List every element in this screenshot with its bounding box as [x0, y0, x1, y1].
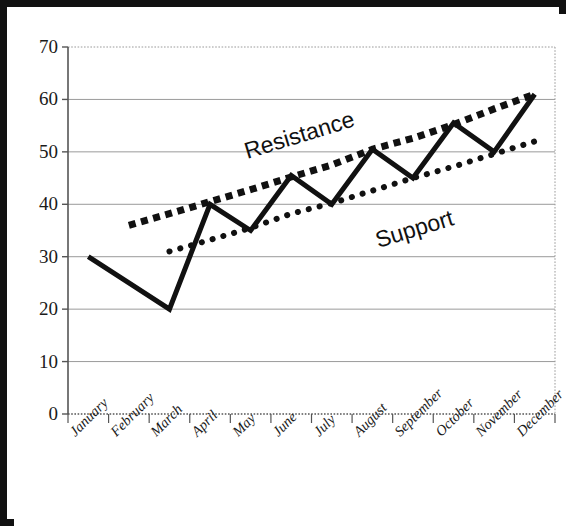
y-tick-label: 10 — [24, 352, 58, 371]
y-tick-label: 20 — [24, 299, 58, 318]
y-tick-label: 40 — [24, 194, 58, 213]
y-tick-label: 70 — [24, 37, 58, 56]
y-tick-label: 0 — [24, 404, 58, 423]
chart-canvas: 706050403020100 JanuaryFebruaryMarchApri… — [14, 14, 566, 526]
y-tick-label: 60 — [24, 89, 58, 108]
y-tick-label: 30 — [24, 247, 58, 266]
image-border: 706050403020100 JanuaryFebruaryMarchApri… — [0, 0, 566, 526]
y-tick-label: 50 — [24, 142, 58, 161]
line-chart — [14, 14, 566, 526]
gridlines-group — [68, 47, 555, 414]
axes-group — [62, 47, 555, 414]
